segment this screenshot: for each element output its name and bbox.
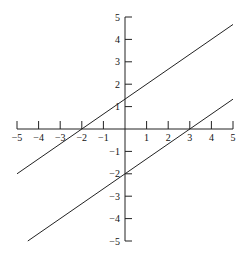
y-tick-label: −2: [109, 168, 120, 179]
x-tick-label: 4: [209, 132, 214, 143]
y-tick-label: −3: [109, 191, 120, 202]
x-tick-label: 2: [166, 132, 171, 143]
y-tick-label: 3: [115, 56, 120, 67]
axes: −5−4−3−2−112345−5−4−3−2−112345: [12, 12, 236, 247]
x-tick-label: 3: [187, 132, 192, 143]
series-line-2: [28, 99, 233, 241]
x-tick-label: −5: [12, 132, 23, 143]
x-tick-label: −1: [98, 132, 109, 143]
x-tick-label: 5: [231, 132, 236, 143]
y-tick-label: 2: [115, 79, 120, 90]
y-tick-label: 5: [115, 12, 120, 23]
y-tick-label: 4: [115, 34, 120, 45]
x-tick-label: 1: [144, 132, 149, 143]
y-tick-label: −4: [109, 213, 120, 224]
y-tick-label: −5: [109, 236, 120, 247]
y-tick-label: −1: [109, 146, 120, 157]
x-tick-label: −2: [76, 132, 87, 143]
line-chart: −5−4−3−2−112345−5−4−3−2−112345: [0, 0, 247, 257]
x-tick-label: −4: [33, 132, 44, 143]
